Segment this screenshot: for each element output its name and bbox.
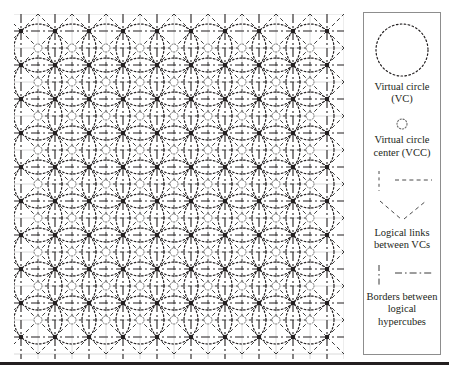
legend-entry-logical-links: Logical links between VCs (364, 169, 440, 251)
legend-sample-virtual-circle (371, 19, 433, 81)
legend-label-vcc: Virtual circle center (VCC) (364, 134, 440, 158)
legend-sample-vcc (392, 114, 412, 134)
legend-label-hypercube-borders: Borders between logical hypercubes (364, 291, 440, 328)
legend-panel: Virtual circle (VC) Virtual circle cente… (363, 12, 441, 355)
figure-virtual-circle-mesh: Virtual circle (VC) Virtual circle cente… (0, 0, 449, 381)
figure-bottom-rule (0, 362, 449, 365)
legend-entry-virtual-circle: Virtual circle (VC) (364, 19, 440, 105)
legend-entry-hypercube-borders: Borders between logical hypercubes (364, 261, 440, 328)
legend-sample-hypercube-borders (366, 261, 438, 291)
legend-sample-logical-links (366, 169, 438, 227)
legend-label-logical-links: Logical links between VCs (364, 227, 440, 251)
legend-label-virtual-circle: Virtual circle (VC) (364, 81, 440, 105)
legend-entry-vcc: Virtual circle center (VCC) (364, 114, 440, 158)
